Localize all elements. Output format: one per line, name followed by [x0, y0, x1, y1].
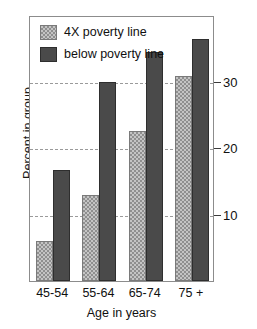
y-tick-mark-20: [214, 148, 221, 149]
y-tick-label-10: 10: [223, 209, 237, 222]
x-tick-label-65-74: 65-74: [122, 287, 168, 300]
legend-item-4x-poverty-line: 4X poverty line: [40, 23, 164, 42]
x-axis-title: Age in years: [29, 307, 214, 320]
legend-item-below-poverty-line: below poverty line: [40, 45, 164, 64]
bar-75-dark: [192, 39, 209, 281]
x-tick-label-55-64: 55-64: [75, 287, 121, 300]
bar-45-54-dark: [53, 170, 70, 281]
y-tick-label-20: 20: [223, 142, 237, 155]
bar-65-74-light: [129, 131, 146, 281]
legend-label-below-poverty-line: below poverty line: [64, 48, 164, 61]
y-tick-mark-30: [214, 82, 221, 83]
bar-65-74-dark: [146, 52, 163, 281]
legend-swatch-dark-solid: [40, 47, 57, 62]
x-tick-label-75: 75 +: [168, 287, 214, 300]
legend-swatch-light-hatched: [40, 25, 57, 40]
y-tick-label-30: 30: [223, 76, 237, 89]
legend-label-4x-poverty-line: 4X poverty line: [64, 26, 147, 39]
bar-55-64-dark: [99, 82, 116, 282]
bar-75-light: [175, 76, 192, 281]
bar-45-54-light: [36, 241, 53, 281]
x-tick-label-45-54: 45-54: [29, 287, 75, 300]
bar-55-64-light: [82, 195, 99, 281]
y-tick-mark-10: [214, 215, 221, 216]
legend: 4X poverty line below poverty line: [40, 23, 164, 67]
bar-chart: Percent in group 4X poverty line below p…: [0, 0, 257, 329]
